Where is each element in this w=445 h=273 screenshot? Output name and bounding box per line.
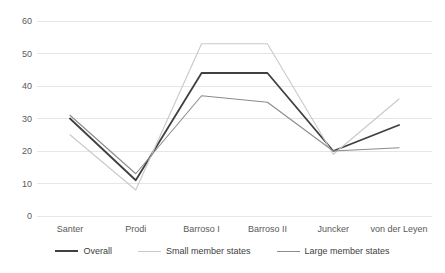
- legend-label: Large member states: [305, 246, 390, 256]
- legend-line-swatch: [277, 251, 300, 252]
- x-tick-label: von der Leyen: [366, 224, 432, 234]
- y-tick-label: 20: [6, 146, 32, 156]
- y-tick-label: 40: [6, 81, 32, 91]
- legend-label: Overall: [83, 246, 112, 256]
- x-tick-label: Barroso II: [235, 224, 301, 234]
- y-tick-label: 10: [6, 179, 32, 189]
- x-tick-label: Santer: [37, 224, 103, 234]
- series-lines: [70, 44, 399, 190]
- legend-entry-small-member-states[interactable]: Small member states: [138, 246, 251, 256]
- gridlines: [37, 21, 432, 216]
- legend-entry-large-member-states[interactable]: Large member states: [277, 246, 390, 256]
- series-line-small-member-states: [70, 44, 399, 190]
- legend-entry-overall[interactable]: Overall: [55, 246, 112, 256]
- legend-label: Small member states: [166, 246, 251, 256]
- series-line-overall: [70, 73, 399, 180]
- x-tick-label: Juncker: [300, 224, 366, 234]
- line-chart: 6050403020100 SanterProdiBarroso IBarros…: [0, 0, 445, 273]
- series-line-large-member-states: [70, 96, 399, 174]
- x-tick-label: Barroso I: [169, 224, 235, 234]
- y-tick-label: 0: [6, 211, 32, 221]
- y-tick-label: 30: [6, 114, 32, 124]
- legend-line-swatch: [55, 250, 78, 252]
- legend-line-swatch: [138, 251, 161, 252]
- y-tick-label: 60: [6, 16, 32, 26]
- y-tick-label: 50: [6, 49, 32, 59]
- chart-legend: OverallSmall member statesLarge member s…: [0, 246, 445, 256]
- x-tick-label: Prodi: [103, 224, 169, 234]
